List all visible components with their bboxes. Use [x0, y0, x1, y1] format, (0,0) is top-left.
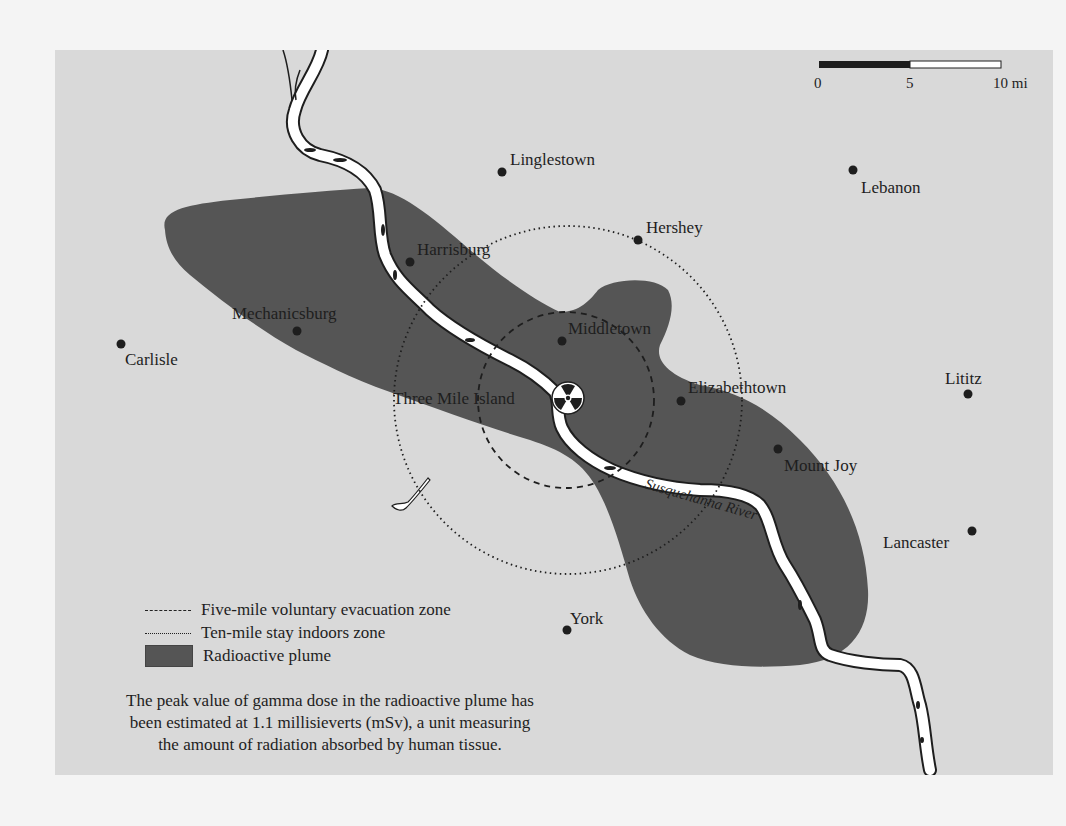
town-dot-icon [117, 340, 126, 349]
town-dot-icon [774, 445, 783, 454]
map-panel: LinglestownLebanonHersheyHarrisburgMecha… [55, 50, 1053, 775]
site-label: Three Mile Island [393, 389, 515, 408]
town-label-lancaster: Lancaster [883, 533, 949, 552]
caption-line: the amount of radiation absorbed by huma… [55, 734, 605, 756]
caption-line: The peak value of gamma dose in the radi… [55, 690, 605, 712]
legend-label: Radioactive plume [203, 646, 331, 666]
radiation-trefoil-icon [552, 382, 584, 414]
town-label-mechanicsburg: Mechanicsburg [232, 304, 337, 323]
town-label-elizabethtown: Elizabethtown [688, 378, 787, 397]
town-label-mount-joy: Mount Joy [784, 456, 858, 475]
town-label-lititz: Lititz [945, 369, 982, 388]
town-dot-icon [558, 337, 567, 346]
plume-swatch-icon [145, 645, 193, 667]
town-label-carlisle: Carlisle [125, 350, 178, 369]
town-label-middletown: Middletown [568, 319, 652, 338]
town-dot-icon [498, 168, 507, 177]
radioactive-plume [164, 188, 868, 667]
town-dot-icon [849, 166, 858, 175]
scale-tick-5: 5 [906, 75, 914, 91]
legend-label: Five-mile voluntary evacuation zone [201, 600, 451, 620]
town-dot-icon [964, 390, 973, 399]
town-dot-icon [406, 258, 415, 267]
legend-item-plume: Radioactive plume [145, 644, 565, 667]
town-label-hershey: Hershey [646, 218, 703, 237]
small-lake [392, 478, 430, 510]
dashed-line-icon [145, 610, 191, 611]
legend: Five-mile voluntary evacuation zone Ten-… [145, 598, 565, 667]
town-label-linglestown: Linglestown [510, 150, 595, 169]
town-dot-icon [968, 527, 977, 536]
caption-line: been estimated at 1.1 millisieverts (mSv… [55, 712, 605, 734]
legend-item-five-mile: Five-mile voluntary evacuation zone [145, 598, 565, 621]
legend-label: Ten-mile stay indoors zone [201, 623, 385, 643]
scale-tick-10: 10 mi [993, 75, 1028, 91]
town-dot-icon [634, 236, 643, 245]
town-label-lebanon: Lebanon [861, 178, 921, 197]
legend-item-ten-mile: Ten-mile stay indoors zone [145, 621, 565, 644]
town-label-york: York [570, 609, 604, 628]
town-dot-icon [293, 327, 302, 336]
scale-bar: 0 5 10 mi [814, 61, 1028, 91]
scale-tick-0: 0 [814, 75, 822, 91]
dotted-line-icon [145, 633, 191, 634]
caption: The peak value of gamma dose in the radi… [55, 690, 605, 756]
town-dot-icon [677, 397, 686, 406]
town-label-harrisburg: Harrisburg [417, 240, 491, 259]
